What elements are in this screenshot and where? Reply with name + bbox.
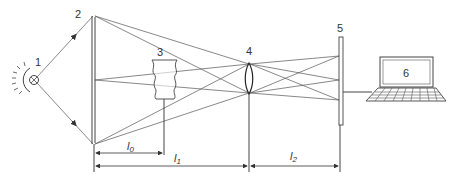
rays-to-screen — [250, 56, 339, 100]
label-4: 4 — [246, 45, 252, 57]
reflector-arc-icon — [23, 68, 30, 92]
dim-l1: l1 — [174, 152, 181, 166]
dimension-lines: l0 l1 l2 — [94, 140, 338, 172]
label-1: 1 — [35, 56, 41, 68]
label-5: 5 — [337, 22, 343, 34]
laptop-computer: 6 — [366, 57, 446, 101]
dim-l0: l0 — [127, 140, 134, 154]
label-3: 3 — [157, 46, 163, 58]
label-2: 2 — [75, 8, 81, 20]
collimating-mirror: 2 — [75, 8, 95, 144]
screen-sensor: 5 — [337, 22, 372, 172]
dim-l2: l2 — [290, 150, 297, 164]
label-6: 6 — [403, 67, 409, 79]
test-object: 3 — [152, 46, 177, 155]
light-source: 1 — [12, 56, 41, 94]
optical-diagram: 1 2 3 4 — [0, 0, 464, 179]
